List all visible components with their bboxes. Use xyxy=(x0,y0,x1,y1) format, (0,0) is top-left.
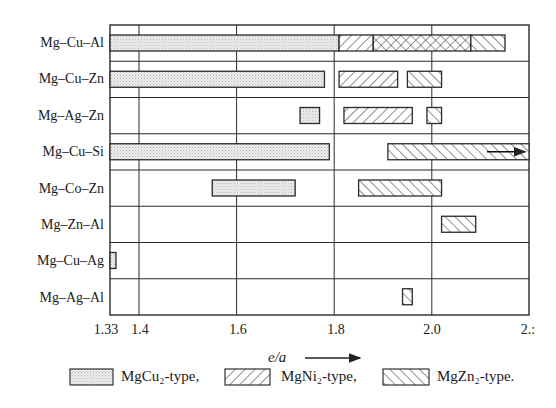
legend-swatch-mgzn2 xyxy=(383,369,429,385)
bar-mgni2 xyxy=(339,35,373,51)
xtick-2-0: 2.0 xyxy=(423,322,441,338)
row-label-mg-zn-al: Mg–Zn–Al xyxy=(0,217,104,233)
legend-label-mgni2: MgNi₂-type, xyxy=(281,368,357,385)
bar-mgzn2 xyxy=(403,289,413,305)
xtick-1-8: 1.8 xyxy=(327,322,345,338)
xtick-1-4: 1.4 xyxy=(131,322,149,338)
row-label-mg-cu-al: Mg–Cu–Al xyxy=(0,35,104,51)
xtick-1-33: 1.33 xyxy=(94,322,119,338)
row-label-mg-co-zn: Mg–Co–Zn xyxy=(0,181,104,197)
bar-mgzn2 xyxy=(442,216,476,232)
legend-label-mgzn2: MgZn₂-type. xyxy=(437,368,514,385)
bar-mgzn2 xyxy=(471,35,505,51)
row-label-mg-cu-ag: Mg–Cu–Ag xyxy=(0,253,104,269)
bar-mgni2 xyxy=(344,108,412,124)
bar-mgcu2 xyxy=(212,180,295,196)
legend-swatch-mgcu2 xyxy=(70,369,113,385)
legend-swatch-mgni2 xyxy=(225,369,270,385)
chart-grid xyxy=(110,25,529,315)
xtick-1-6: 1.6 xyxy=(229,322,247,338)
row-label-mg-cu-si: Mg–Cu–Si xyxy=(0,144,104,160)
bar-mgcu2 xyxy=(110,71,324,87)
row-label-mg-ag-zn: Mg–Ag–Zn xyxy=(0,108,104,124)
xtick-2-2: 2.: xyxy=(521,322,535,338)
legend-label-mgcu2: MgCu₂-type, xyxy=(121,368,199,385)
phase-chart xyxy=(0,0,556,408)
row-label-mg-ag-al: Mg–Ag–Al xyxy=(0,290,104,306)
bar-mgzn2 xyxy=(359,180,442,196)
bar-mgcu2 xyxy=(110,253,116,269)
xaxis-label: e/a xyxy=(268,349,286,366)
bar-mgcu2 xyxy=(110,144,329,160)
bar-mgcu2 xyxy=(300,108,320,124)
bar-mgcu2 xyxy=(110,35,339,51)
bar-mgzn2 xyxy=(427,108,442,124)
bar-mgni2 xyxy=(339,71,398,87)
row-label-mg-cu-zn: Mg–Cu–Zn xyxy=(0,71,104,87)
bar-mgzn2 xyxy=(407,71,441,87)
bar-mgni2-mgzn2 xyxy=(373,35,471,51)
